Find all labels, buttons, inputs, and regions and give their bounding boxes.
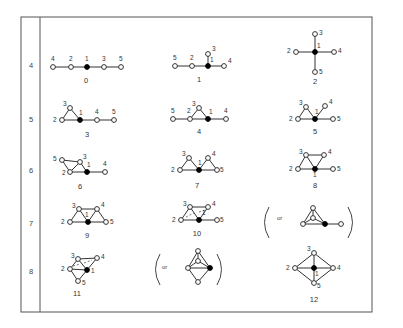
graph-number: 2 [313, 77, 317, 86]
graph-g12: 3214512 [286, 245, 341, 304]
open-vertex [186, 266, 191, 271]
graph-number: 7 [195, 181, 199, 190]
graph-g1: 521341 [173, 45, 232, 84]
graph-g6: 532146 [53, 153, 107, 191]
open-vertex [76, 279, 81, 284]
filled-vertex [86, 220, 91, 225]
open-vertex [179, 218, 184, 223]
vertex-label: 2 [289, 165, 293, 172]
vertex-label: 1 [85, 55, 89, 62]
graph-number: 10 [193, 229, 201, 238]
vertex-label: 2 [286, 264, 290, 271]
row-label: 7 [29, 219, 33, 228]
vertex-label: 3 [83, 153, 87, 160]
vertex-label: 4 [337, 264, 341, 271]
open-vertex [293, 266, 298, 271]
filled-vertex [197, 168, 202, 173]
graph-g10b [301, 206, 344, 227]
vertex-label: 3 [182, 150, 186, 157]
open-vertex [323, 104, 328, 109]
open-vertex [215, 168, 220, 173]
open-vertex [206, 156, 211, 161]
vertex-label: 1 [198, 159, 202, 166]
vertex-label: 5 [337, 115, 341, 122]
vertex-label: 2 [62, 169, 66, 176]
open-vertex [215, 218, 220, 223]
row-label: 4 [29, 61, 33, 70]
vertex-label: 5 [317, 282, 321, 289]
open-vertex [301, 222, 306, 227]
open-vertex [311, 216, 316, 221]
dashed-edge [186, 213, 194, 217]
vertex-label: 2 [53, 116, 57, 123]
vertex-label: 1 [85, 211, 89, 218]
vertex-label: 4 [212, 200, 216, 207]
filled-vertex [197, 218, 202, 223]
vertex-label: 4 [212, 150, 216, 157]
graph-edge [295, 268, 314, 283]
open-vertex [171, 117, 176, 122]
graph-number: 8 [313, 181, 317, 190]
or-label: or [162, 264, 167, 270]
open-vertex [222, 64, 227, 69]
or-label: or [277, 215, 282, 221]
graph-edge [314, 253, 333, 268]
vertex-label: 3 [299, 99, 303, 106]
right-parenthesis [348, 207, 353, 238]
row-label: 8 [29, 267, 33, 276]
row-label: 5 [29, 115, 33, 124]
graph-number: 0 [84, 76, 88, 85]
vertex-label: 5 [53, 155, 57, 162]
open-vertex [95, 118, 100, 123]
open-vertex [60, 158, 65, 163]
graph-g0: 421350 [51, 55, 124, 85]
vertex-label: 3 [183, 200, 187, 207]
graph-number: 4 [197, 127, 201, 136]
graph-g11: 3421511 [61, 252, 105, 298]
open-vertex [69, 65, 74, 70]
open-vertex [312, 251, 317, 256]
filled-vertex [323, 222, 328, 227]
graph-g2: 321452 [287, 29, 342, 86]
open-vertex [196, 280, 201, 285]
vertex-label: 2 [190, 54, 194, 61]
filled-vertex [78, 118, 83, 123]
filled-vertex [208, 266, 213, 271]
open-vertex [294, 50, 299, 55]
open-vertex [331, 167, 336, 172]
graph-table-figure: 45678 4213505213413214522314535231442314… [0, 0, 403, 328]
open-vertex [312, 281, 317, 286]
vertex-label: 2 [187, 107, 191, 114]
graph-number: 11 [73, 289, 81, 298]
open-vertex [190, 64, 195, 69]
open-vertex [188, 117, 193, 122]
open-vertex [77, 207, 82, 212]
vertex-label: 4 [51, 55, 55, 62]
filled-vertex [85, 268, 90, 273]
open-vertex [102, 65, 107, 70]
open-vertex [51, 65, 56, 70]
vertex-label: 5 [110, 218, 114, 225]
vertex-label: 2 [171, 166, 175, 173]
open-vertex [313, 70, 318, 75]
vertex-label: 1 [313, 171, 317, 178]
vertex-label: 2 [61, 218, 65, 225]
vertex-label: 5 [337, 165, 341, 172]
graph-number: 1 [197, 75, 201, 84]
open-vertex [95, 256, 100, 261]
open-vertex [119, 65, 124, 70]
vertex-label: 3 [63, 100, 67, 107]
open-vertex [206, 205, 211, 210]
open-vertex [188, 205, 193, 210]
vertex-label: 3 [72, 202, 76, 209]
vertex-label: 4 [228, 57, 232, 64]
vertex-label: 1 [315, 108, 319, 115]
vertex-label: 2 [172, 216, 176, 223]
open-vertex [68, 220, 73, 225]
open-vertex [76, 257, 81, 262]
vertex-label: 1 [210, 56, 214, 63]
vertex-label: 5 [112, 108, 116, 115]
open-vertex [68, 170, 73, 175]
filled-vertex [85, 65, 90, 70]
open-vertex [331, 117, 336, 122]
